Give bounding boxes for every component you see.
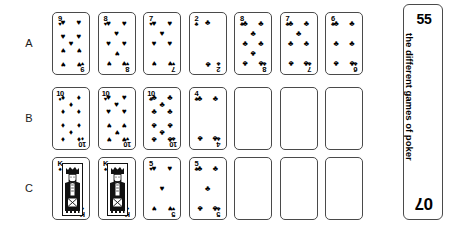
clubs-pip-icon: ♣: [211, 134, 219, 142]
card-a5-8-clubs[interactable]: 8♣8♣♣♣♣♣♣♣♣♣: [234, 12, 272, 75]
hearts-pip-icon: ♥: [105, 20, 113, 28]
clubs-pip-icon: ♣: [241, 40, 249, 48]
card-c4-5-clubs[interactable]: 5♣5♣♣♣♣♣♣: [189, 157, 227, 220]
hearts-pip-icon: ♥: [120, 135, 128, 143]
card-a4-2-clubs[interactable]: 2♣2♣♣♣: [189, 12, 227, 75]
card-c3-5-hearts[interactable]: 5♥5♥♥♥♥♥♥: [143, 157, 181, 220]
hearts-pip-icon: ♥: [120, 20, 128, 28]
clubs-pip-icon: ♣: [332, 59, 340, 67]
hearts-pip-icon: ♥: [158, 30, 166, 38]
clubs-pip-icon: ♣: [348, 40, 356, 48]
card-slot-empty-c5[interactable]: [234, 157, 272, 220]
hearts-pip-icon: ♥: [120, 108, 128, 116]
card-a6-7-clubs[interactable]: 7♣7♣♣♣♣♣♣♣♣: [280, 12, 318, 75]
diamonds-pip-icon: ♦: [59, 135, 67, 143]
diamonds-pip-icon: ♦: [75, 121, 83, 129]
clubs-pip-icon: ♣: [249, 30, 257, 38]
hearts-pip-icon: ♥: [113, 49, 121, 57]
card-pip-field: ♣♣: [194, 19, 222, 68]
card-slot-empty-b7[interactable]: [325, 87, 363, 150]
clubs-pip-icon: ♣: [150, 108, 158, 116]
hearts-pip-icon: ♥: [120, 94, 128, 102]
card-a7-6-clubs[interactable]: 6♣6♣♣♣♣♣♣♣: [325, 12, 363, 75]
hearts-pip-icon: ♥: [166, 40, 174, 48]
king-face-illustration: [107, 163, 128, 216]
hearts-pip-icon: ♥: [105, 121, 113, 129]
clubs-pip-icon: ♣: [287, 40, 295, 48]
card-c2-K-spades[interactable]: K♠K♠: [98, 157, 136, 220]
hearts-pip-icon: ♥: [113, 30, 121, 38]
hearts-pip-icon: ♥: [59, 19, 67, 27]
diamonds-pip-icon: ♦: [59, 94, 67, 102]
clubs-pip-icon: ♣: [196, 134, 204, 142]
diamonds-pip-icon: ♦: [75, 108, 83, 116]
clubs-pip-icon: ♣: [348, 59, 356, 67]
clubs-pip-icon: ♣: [249, 49, 257, 57]
clubs-pip-icon: ♣: [295, 30, 303, 38]
hearts-pip-icon: ♥: [113, 101, 121, 109]
card-slot-empty-c6[interactable]: [280, 157, 318, 220]
clubs-pip-icon: ♣: [150, 121, 158, 129]
card-pip-field: ♦♦♦♦♦♦♦♦♦♦: [57, 94, 85, 143]
hearts-pip-icon: ♥: [59, 33, 67, 41]
card-slot-empty-b5[interactable]: [234, 87, 272, 150]
clubs-pip-icon: ♣: [150, 135, 158, 143]
clubs-pip-icon: ♣: [166, 94, 174, 102]
row-label-c: C: [18, 182, 40, 194]
hearts-pip-icon: ♥: [59, 60, 67, 68]
side-title-container: the different games of poker: [404, 33, 444, 183]
card-b4-4-clubs[interactable]: 4♣4♣♣♣♣♣: [189, 87, 227, 150]
hearts-pip-icon: ♥: [105, 135, 113, 143]
card-slot-empty-b6[interactable]: [280, 87, 318, 150]
clubs-pip-icon: ♣: [332, 40, 340, 48]
clubs-pip-icon: ♣: [196, 165, 204, 173]
card-pip-field: ♣♣♣♣♣♣♣♣: [239, 19, 267, 68]
hearts-pip-icon: ♥: [150, 40, 158, 48]
card-pip-field: ♥♥♥♥♥: [148, 164, 176, 213]
clubs-pip-icon: ♣: [166, 135, 174, 143]
card-pip-field: ♣♣♣♣: [194, 94, 222, 143]
hearts-pip-icon: ♥: [158, 185, 166, 193]
card-pip-field: ♣♣♣♣♣♣: [330, 19, 358, 68]
clubs-pip-icon: ♣: [204, 60, 212, 68]
card-slot-empty-c7[interactable]: [325, 157, 363, 220]
clubs-pip-icon: ♣: [211, 165, 219, 173]
card-b3-10-clubs[interactable]: 10♣10♣♣♣♣♣♣♣♣♣♣♣: [143, 87, 181, 150]
hearts-pip-icon: ♥: [75, 19, 83, 27]
clubs-pip-icon: ♣: [211, 204, 219, 212]
card-a1-9-hearts[interactable]: 9♥9♥♥♥♥♥♥♥♥♥♥: [52, 12, 90, 75]
hearts-pip-icon: ♥: [59, 46, 67, 54]
chapter-number-text: 07: [415, 193, 433, 213]
hearts-pip-icon: ♥: [150, 165, 158, 173]
hearts-pip-icon: ♥: [166, 59, 174, 67]
side-tab: 55 the different games of poker 07: [403, 4, 443, 220]
clubs-pip-icon: ♣: [204, 19, 212, 27]
card-pip-field: ♥♥♥♥♥♥♥: [148, 19, 176, 68]
clubs-pip-icon: ♣: [287, 59, 295, 67]
card-a3-7-hearts[interactable]: 7♥7♥♥♥♥♥♥♥♥: [143, 12, 181, 75]
card-pip-field: ♥♥♥♥♥♥♥♥♥♥: [103, 94, 131, 143]
clubs-pip-icon: ♣: [204, 185, 212, 193]
clubs-pip-icon: ♣: [302, 59, 310, 67]
clubs-pip-icon: ♣: [158, 101, 166, 109]
clubs-pip-icon: ♣: [257, 59, 265, 67]
clubs-pip-icon: ♣: [211, 95, 219, 103]
card-c1-K-spades[interactable]: K♠K♠: [52, 157, 90, 220]
hearts-pip-icon: ♥: [120, 59, 128, 67]
diamonds-pip-icon: ♦: [67, 128, 75, 136]
hearts-pip-icon: ♥: [75, 46, 83, 54]
page-number: 55: [404, 11, 444, 27]
hearts-pip-icon: ♥: [150, 204, 158, 212]
clubs-pip-icon: ♣: [302, 40, 310, 48]
diamonds-pip-icon: ♦: [75, 94, 83, 102]
card-pip-field: ♣♣♣♣♣♣♣: [285, 19, 313, 68]
card-b2-10-hearts[interactable]: 10♥10♥♥♥♥♥♥♥♥♥♥♥: [98, 87, 136, 150]
hearts-pip-icon: ♥: [166, 165, 174, 173]
diamonds-pip-icon: ♦: [59, 121, 67, 129]
card-b1-10-diamonds[interactable]: 10♦10♦♦♦♦♦♦♦♦♦♦♦: [52, 87, 90, 150]
card-a2-8-hearts[interactable]: 8♥8♥♥♥♥♥♥♥♥♥: [98, 12, 136, 75]
diamonds-pip-icon: ♦: [75, 135, 83, 143]
hearts-pip-icon: ♥: [150, 59, 158, 67]
clubs-pip-icon: ♣: [241, 20, 249, 28]
clubs-pip-icon: ♣: [166, 121, 174, 129]
